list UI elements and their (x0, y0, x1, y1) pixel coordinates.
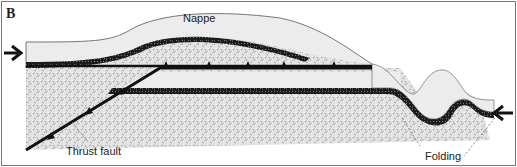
arrow-right-icon (4, 46, 21, 60)
folding-label: Folding (425, 150, 461, 162)
panel-letter: B (6, 6, 15, 22)
nappe-label: Nappe (183, 12, 215, 24)
thrust-fault-label: Thrust fault (66, 145, 121, 157)
arrow-left-icon (494, 106, 513, 120)
nappe-light-interior (120, 72, 400, 88)
cross-section-diagram (0, 0, 517, 167)
